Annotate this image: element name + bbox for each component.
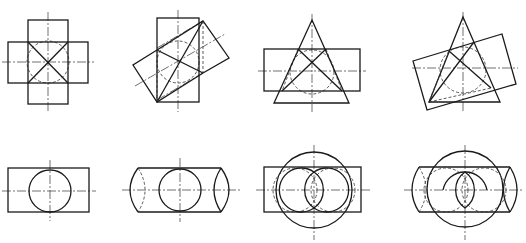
fig-2-rotated-prisms	[133, 10, 229, 112]
fig-1-crossed-prisms	[2, 12, 94, 112]
projection-drawing-sheet	[0, 0, 526, 243]
fig-4-cone-tilted-prism	[412, 12, 518, 112]
fig-3-cone-prism	[258, 14, 366, 112]
fig-5-cylinder-rectangle	[2, 160, 96, 221]
fig-7-sphere-cylinder	[256, 145, 372, 240]
fig-8-sphere-cylinder-curved	[404, 145, 524, 240]
fig-6-cylinder-curved-ends	[122, 158, 240, 222]
